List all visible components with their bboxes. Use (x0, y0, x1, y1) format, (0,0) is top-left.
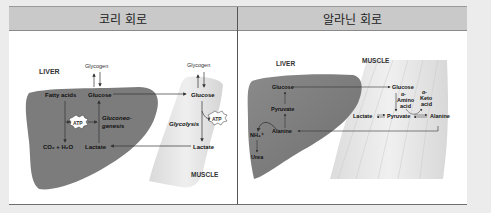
comparison-table: 코리 회로 알라닌 회로 LIVER MUSCLE Glycogen Fatty… (9, 6, 467, 205)
svg-text:Urea: Urea (251, 154, 264, 160)
svg-text:Glycogen: Glycogen (85, 63, 108, 69)
svg-text:acid: acid (400, 103, 411, 109)
cori-cycle-diagram: LIVER MUSCLE Glycogen Fatty acids Glucos… (9, 31, 237, 204)
svg-text:Glucose: Glucose (88, 92, 112, 98)
svg-text:Glycolysis: Glycolysis (169, 121, 200, 127)
svg-text:Pyruvate: Pyruvate (387, 113, 410, 119)
svg-text:Pyruvate: Pyruvate (271, 106, 294, 112)
svg-text:Fatty acids: Fatty acids (45, 92, 77, 98)
svg-text:genesis: genesis (101, 123, 125, 129)
svg-text:ATP: ATP (212, 116, 222, 122)
svg-text:Glucose: Glucose (191, 92, 215, 98)
svg-text:Lactate: Lactate (353, 113, 372, 119)
svg-text:Lactate: Lactate (85, 144, 107, 150)
svg-text:acid: acid (421, 101, 432, 107)
liver-shape (26, 87, 158, 189)
alanine-cycle-diagram: LIVER MUSCLE Glucose Pyruvate Alanine NH… (238, 31, 467, 204)
svg-text:Lactate: Lactate (193, 144, 215, 150)
svg-text:Glucose: Glucose (392, 84, 414, 90)
muscle-label: MUSCLE (191, 171, 219, 178)
svg-text:NH₄⁺: NH₄⁺ (250, 132, 264, 138)
header-alanine-cycle: 알라닌 회로 (238, 7, 467, 31)
svg-text:Glucose: Glucose (272, 84, 294, 90)
svg-text:Alanine: Alanine (430, 113, 450, 119)
header-cori-cycle: 코리 회로 (9, 7, 237, 31)
muscle-label: MUSCLE (362, 57, 390, 64)
svg-text:CO₂ + H₂O: CO₂ + H₂O (43, 144, 74, 150)
liver-label: LIVER (276, 60, 295, 67)
svg-text:ATP: ATP (73, 120, 83, 126)
svg-text:Glycogen: Glycogen (187, 62, 210, 68)
svg-text:Alanine: Alanine (272, 128, 292, 134)
liver-label: LIVER (39, 68, 60, 75)
svg-text:Gluconeo-: Gluconeo- (102, 115, 132, 121)
